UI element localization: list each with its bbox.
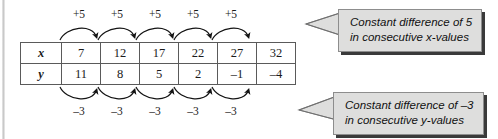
x-callout-pointer-icon [296,11,342,45]
row-header-y: y [21,64,62,85]
bottom-arcs-svg [20,83,292,109]
y-callout-box: Constant difference of –3 in consecutive… [333,92,484,135]
row-header-x: x [21,43,62,64]
page-gutter-edge [2,0,5,139]
cell-y-5: –1 [218,64,257,85]
top-arc-label-2: +5 [97,8,137,20]
bottom-arc-group: –3 –3 –3 –3 –3 [20,83,292,121]
top-arc-group: +5 +5 +5 +5 +5 [20,8,292,44]
cell-y-3: 5 [140,64,179,85]
bottom-arc-label-1: –3 [59,105,99,117]
cell-x-4: 22 [179,43,218,64]
y-callout-line-1: Constant difference of –3 [345,98,474,113]
cell-y-6: –4 [257,64,296,85]
cell-y-1: 11 [62,64,101,85]
bottom-arc-label-5: –3 [211,105,251,117]
bottom-arc-label-2: –3 [97,105,137,117]
table-row-x: x 7 12 17 22 27 32 [21,43,296,64]
top-arc-label-1: +5 [59,8,99,20]
x-callout-line-2: in consecutive x-values [350,30,472,45]
cell-x-5: 27 [218,43,257,64]
cell-x-6: 32 [257,43,296,64]
table-row-y: y 11 8 5 2 –1 –4 [21,64,296,85]
y-callout-pointer-icon [291,94,339,128]
y-callout-line-2: in consecutive y-values [345,113,474,128]
cell-x-3: 17 [140,43,179,64]
top-arcs-svg [20,8,292,44]
cell-x-1: 7 [62,43,101,64]
cell-y-2: 8 [101,64,140,85]
cell-y-4: 2 [179,64,218,85]
top-arc-label-5: +5 [211,8,251,20]
figure-canvas: +5 +5 +5 +5 +5 x 7 12 17 22 27 32 y 11 [0,0,498,139]
bottom-arc-label-3: –3 [135,105,175,117]
cell-x-2: 12 [101,43,140,64]
bottom-arc-label-4: –3 [173,105,213,117]
x-callout-box: Constant difference of 5 in consecutive … [338,9,482,52]
x-callout-line-1: Constant difference of 5 [350,15,472,30]
top-arc-label-4: +5 [173,8,213,20]
top-arc-label-3: +5 [135,8,175,20]
values-table: x 7 12 17 22 27 32 y 11 8 5 2 –1 –4 [20,42,296,85]
values-table-wrapper: x 7 12 17 22 27 32 y 11 8 5 2 –1 –4 [20,42,296,85]
